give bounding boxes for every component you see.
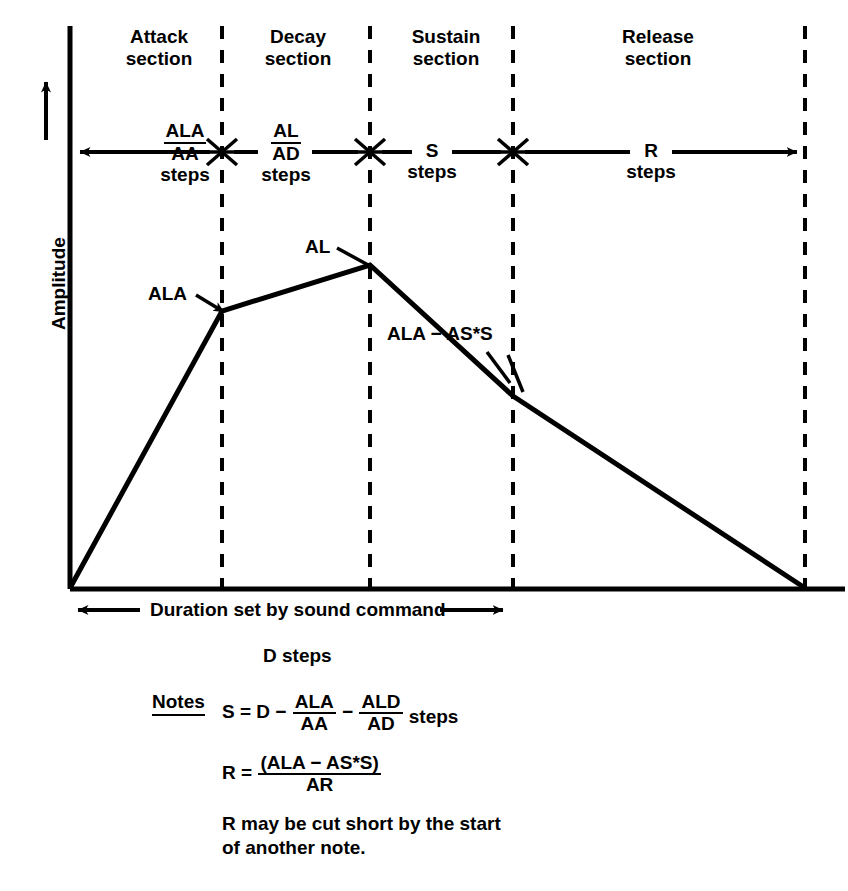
decay-steps-numerator: AL <box>271 121 300 144</box>
equation-s-fraction-1: ALA AA <box>293 692 336 734</box>
section-heading-release-line1: Release <box>592 26 724 48</box>
section-heading-decay-line2: section <box>238 48 358 70</box>
equation-r: R = (ALA − AS*S) AR <box>222 753 382 795</box>
attack-steps-label: ALA AA steps <box>152 121 218 186</box>
cross-marker-sustain-end <box>491 139 535 165</box>
y-axis-title: Amplitude <box>48 237 70 330</box>
equation-s-frac2-numerator: ALD <box>359 692 402 714</box>
section-heading-sustain: Sustain section <box>383 26 509 71</box>
decay-steps-denominator: AD <box>271 144 300 165</box>
section-heading-attack: Attack section <box>96 26 222 71</box>
section-heading-attack-line2: section <box>96 48 222 70</box>
equation-r-numerator: (ALA − AS*S) <box>258 753 380 775</box>
release-steps-label: R steps <box>624 141 678 183</box>
equation-s-minus: − <box>342 701 353 722</box>
section-heading-decay: Decay section <box>238 26 358 71</box>
leader-ala <box>196 295 224 312</box>
leader-al <box>337 248 370 266</box>
leader-sustain-2 <box>508 355 523 392</box>
sustain-steps-symbol: S <box>405 141 459 162</box>
equation-r-denominator: AR <box>258 775 380 795</box>
equation-s-fraction-2: ALD AD <box>359 692 402 734</box>
section-heading-release: Release section <box>592 26 724 71</box>
cross-marker-decay-end <box>348 139 392 165</box>
equation-s-units: steps <box>409 698 459 728</box>
equation-s-lhs: S = D − <box>222 701 286 722</box>
duration-caption: Duration set by sound command <box>150 599 446 621</box>
release-steps-units: steps <box>624 162 678 183</box>
sustain-steps-label: S steps <box>405 141 459 183</box>
attack-steps-units: steps <box>152 165 218 186</box>
ala-callout: ALA <box>148 283 187 305</box>
section-heading-sustain-line1: Sustain <box>383 26 509 48</box>
release-steps-symbol: R <box>624 141 678 162</box>
section-heading-release-line2: section <box>592 48 724 70</box>
sustain-steps-units: steps <box>405 162 459 183</box>
al-callout: AL <box>305 236 330 258</box>
notes-heading: Notes <box>152 692 205 716</box>
equation-s-frac1-numerator: ALA <box>293 692 336 714</box>
equation-s-frac2-denominator: AD <box>359 714 402 734</box>
section-heading-sustain-line2: section <box>383 48 509 70</box>
section-boundary-lines <box>222 26 805 589</box>
notes-remark: R may be cut short by the start of anoth… <box>222 812 501 861</box>
duration-units: D steps <box>263 645 332 667</box>
attack-steps-denominator: AA <box>164 144 205 165</box>
equation-r-lhs: R = <box>222 762 252 783</box>
decay-steps-units: steps <box>259 165 313 186</box>
section-heading-attack-line1: Attack <box>96 26 222 48</box>
equation-r-fraction: (ALA − AS*S) AR <box>258 753 380 795</box>
attack-steps-numerator: ALA <box>164 121 205 144</box>
equation-s: S = D − ALA AA − ALD AD steps <box>222 692 458 734</box>
envelope-curve <box>70 265 805 588</box>
equation-s-frac1-denominator: AA <box>293 714 336 734</box>
decay-steps-label: AL AD steps <box>259 121 313 186</box>
adsr-envelope-figure <box>0 0 848 891</box>
axes <box>46 26 845 589</box>
sustain-level-callout: ALA − AS*S <box>387 323 493 345</box>
decay-steps-fraction: AL AD <box>271 121 300 165</box>
attack-steps-fraction: ALA AA <box>164 121 205 165</box>
section-heading-decay-line1: Decay <box>238 26 358 48</box>
